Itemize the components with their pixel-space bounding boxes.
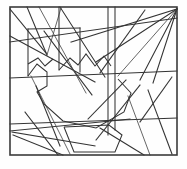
canvas-background xyxy=(0,0,187,169)
abstract-line-drawing: Abstract Straight-Line Composition xyxy=(0,0,187,169)
artwork-canvas: Abstract Straight-Line Composition Recta… xyxy=(0,0,187,169)
